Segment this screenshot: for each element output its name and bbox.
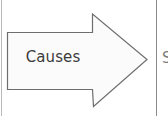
- clipped-neighbor-text: S: [162, 49, 168, 68]
- right-divider-icon: [156, 0, 157, 116]
- arrow-label: Causes: [14, 48, 92, 67]
- diagram-canvas: Causes S: [0, 0, 168, 116]
